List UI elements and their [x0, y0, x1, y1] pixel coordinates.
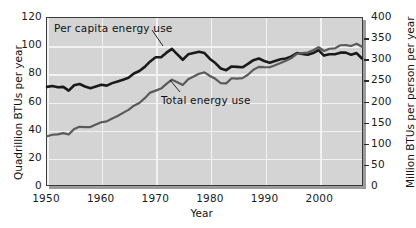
leader-stroke — [170, 80, 180, 92]
